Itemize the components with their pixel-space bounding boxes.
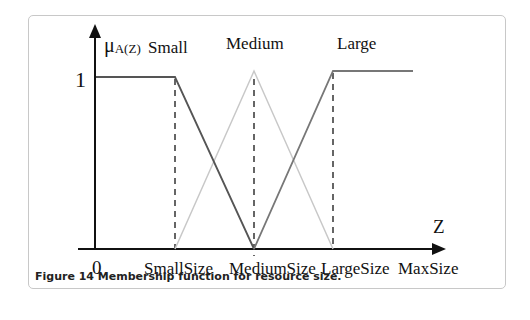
label-large: Large bbox=[337, 34, 376, 53]
x-axis-arrow-icon bbox=[432, 243, 446, 255]
figure-caption: Figure 14 Membership function for resour… bbox=[35, 270, 342, 283]
label-medium: Medium bbox=[226, 34, 284, 53]
y-axis-label: μA(Z) bbox=[104, 34, 141, 57]
x-axis-label: Z bbox=[433, 216, 445, 237]
x-tick-max-size: MaxSize bbox=[398, 259, 458, 278]
y-tick-one: 1 bbox=[75, 67, 86, 92]
label-small: Small bbox=[148, 38, 188, 57]
caption-figure-number: Figure 14 bbox=[35, 270, 94, 283]
caption-text: Membership function for resource size. bbox=[94, 270, 342, 283]
y-axis-arrow-icon bbox=[89, 24, 101, 38]
